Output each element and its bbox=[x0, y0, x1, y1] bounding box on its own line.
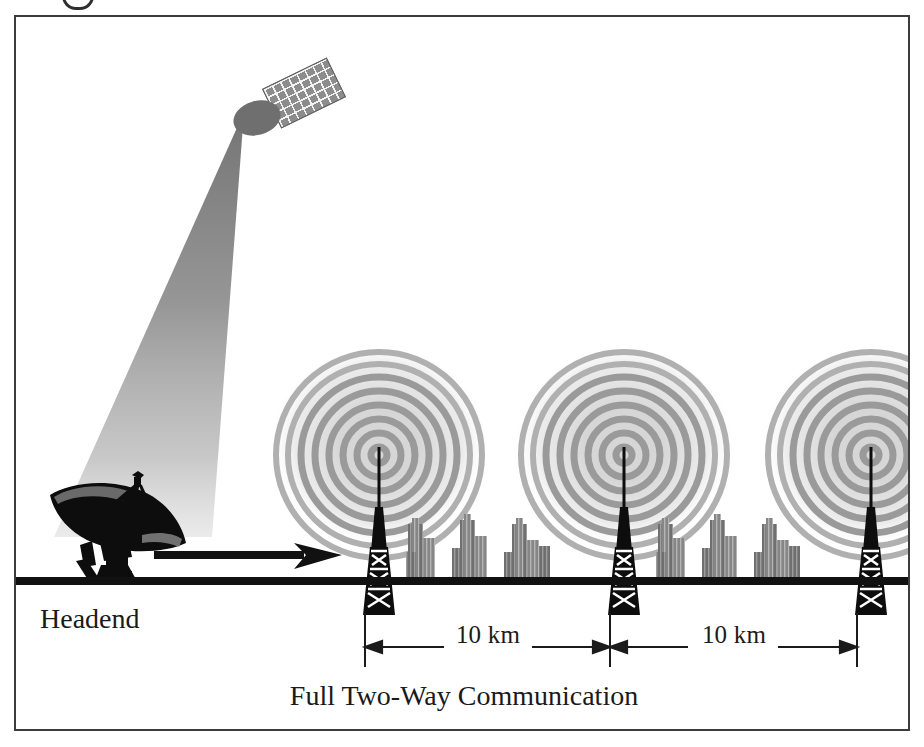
headend-label: Headend bbox=[40, 603, 140, 635]
scan-artifact-glyph bbox=[62, 0, 94, 10]
satellite-icon bbox=[226, 69, 356, 164]
diagram-stage: 10 km 10 km Headend Full Two-Way Communi… bbox=[16, 17, 908, 729]
dimension-label-2: 10 km bbox=[690, 621, 778, 649]
transmission-tower-icon bbox=[849, 447, 893, 615]
city-buildings-icon bbox=[656, 514, 808, 580]
city-buildings-icon bbox=[406, 514, 558, 580]
ground-line bbox=[16, 577, 908, 585]
figure-caption: Full Two-Way Communication bbox=[16, 680, 908, 712]
transmission-tower-icon bbox=[357, 447, 401, 615]
figure-canvas: 10 km 10 km Headend Full Two-Way Communi… bbox=[0, 0, 924, 747]
figure-frame: 10 km 10 km Headend Full Two-Way Communi… bbox=[14, 15, 910, 731]
transmission-tower-icon bbox=[602, 447, 646, 615]
dimension-label-1: 10 km bbox=[444, 621, 532, 649]
